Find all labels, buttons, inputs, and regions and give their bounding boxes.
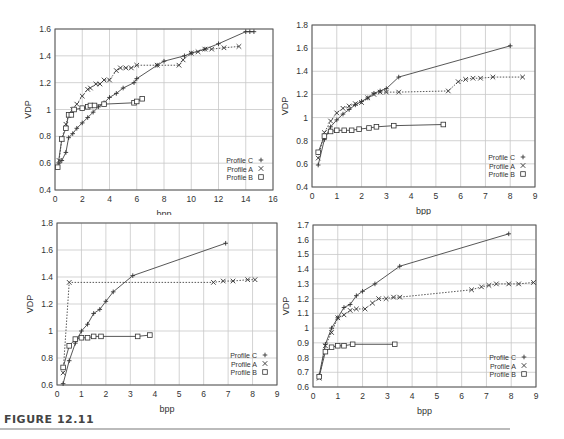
- plus-marker-icon: [342, 305, 347, 310]
- square-marker-icon: [350, 342, 355, 347]
- legend-label: Profile A: [490, 363, 516, 370]
- square-marker-icon: [335, 343, 340, 348]
- y-tick-label: 1: [304, 323, 309, 333]
- caption-rule: [0, 428, 510, 430]
- chart-svg: 01234567890.60.70.80.911.11.21.31.41.51.…: [0, 0, 564, 439]
- x-tick-label: 8: [509, 391, 514, 401]
- cross-marker-icon: [479, 285, 484, 290]
- x-tick-label: 3: [385, 391, 390, 401]
- square-marker-icon: [329, 345, 334, 350]
- cross-marker-icon: [370, 301, 375, 306]
- y-tick-label: 0.8: [297, 353, 309, 363]
- series-line: [319, 234, 509, 375]
- chart-bottom-right: 01234567890.60.70.80.911.11.21.31.41.51.…: [0, 0, 564, 439]
- plot-area: 01234567890.60.70.80.911.11.21.31.41.51.…: [281, 220, 539, 416]
- y-tick-label: 1.6: [297, 235, 309, 245]
- plus-marker-icon: [506, 232, 511, 237]
- y-tick-label: 1.5: [297, 249, 309, 259]
- plus-marker-icon: [522, 355, 527, 360]
- x-tick-label: 4: [410, 391, 415, 401]
- y-tick-label: 1.3: [297, 279, 309, 289]
- figure-caption: FIGURE 12.11: [4, 413, 94, 426]
- cross-marker-icon: [354, 307, 359, 312]
- square-marker-icon: [392, 342, 397, 347]
- x-axis-label: bpp: [417, 406, 432, 416]
- x-tick-label: 2: [360, 391, 365, 401]
- x-tick-label: 5: [435, 391, 440, 401]
- y-tick-label: 0.9: [297, 338, 309, 348]
- square-marker-icon: [317, 374, 322, 379]
- cross-marker-icon: [348, 308, 353, 313]
- x-tick-label: 0: [311, 391, 316, 401]
- x-tick-label: 6: [459, 391, 464, 401]
- legend-label: Profile B: [490, 371, 517, 378]
- y-tick-label: 0.6: [297, 382, 309, 392]
- y-tick-label: 1.2: [297, 294, 309, 304]
- square-marker-icon: [522, 372, 527, 377]
- y-tick-label: 1.7: [297, 220, 309, 230]
- y-tick-label: 1.4: [297, 264, 309, 274]
- x-tick-label: 9: [534, 391, 539, 401]
- y-tick-label: 0.7: [297, 367, 309, 377]
- x-tick-label: 7: [484, 391, 489, 401]
- square-marker-icon: [342, 343, 347, 348]
- x-tick-label: 1: [335, 391, 340, 401]
- cross-marker-icon: [522, 363, 527, 368]
- square-marker-icon: [323, 349, 328, 354]
- y-tick-label: 1.1: [297, 308, 309, 318]
- y-axis-label: VDP: [281, 297, 291, 316]
- legend-label: Profile C: [489, 354, 516, 361]
